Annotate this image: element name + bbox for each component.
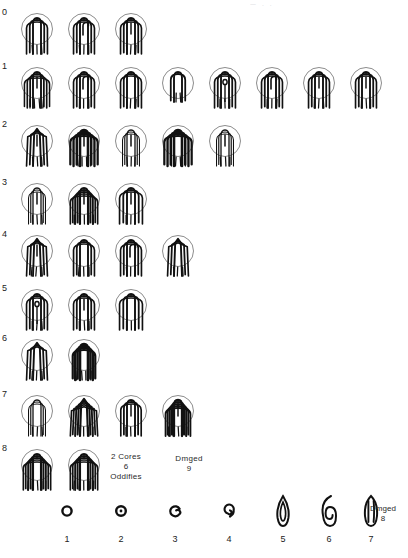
pattern-row-5: 5 [0, 284, 408, 334]
damaged-note-9: Dmged 9 [166, 454, 212, 474]
fingerprint-pattern-cell[interactable] [108, 62, 154, 112]
fingerprint-pattern-cell[interactable] [202, 120, 248, 170]
cores-oddities-note: 2 Cores 6 Oddifies [98, 452, 154, 482]
whorl-legend-item-4[interactable]: 4 [206, 490, 252, 544]
row-label-5: 5 [2, 284, 7, 293]
damaged-note-8: Dmged 8 [358, 504, 408, 524]
page-top-crop-marks: — . . [250, 0, 408, 7]
fingerprint-pattern-cell[interactable] [343, 62, 389, 112]
whorl-legend-item-3[interactable]: 3 [152, 490, 198, 544]
fingerprint-pattern-cell[interactable] [61, 8, 107, 58]
fingerprint-pattern-cell[interactable] [14, 230, 60, 280]
fingerprint-pattern-cell[interactable] [14, 178, 60, 228]
pattern-row-4: 4 [0, 230, 408, 280]
whorl-legend-item-1[interactable]: 1 [44, 490, 90, 544]
fingerprint-pattern-cell[interactable] [155, 62, 201, 112]
whorl-ring-icon [44, 490, 90, 532]
fingerprint-pattern-cell[interactable] [155, 120, 201, 170]
whorl-legend-number: 2 [98, 534, 144, 544]
fingerprint-pattern-cell[interactable] [155, 390, 201, 440]
whorl-legend: 1234567 Dmged 8 [0, 490, 408, 558]
whorl-legend-number: 7 [348, 534, 394, 544]
row-label-6: 6 [2, 334, 7, 343]
fingerprint-pattern-cell[interactable] [14, 284, 60, 334]
fingerprint-pattern-cell[interactable] [14, 8, 60, 58]
fingerprint-pattern-cell[interactable] [61, 390, 107, 440]
whorl-spiral-tail-icon [206, 490, 252, 532]
pattern-row-2: 2 [0, 120, 408, 170]
row-label-4: 4 [2, 230, 7, 239]
whorl-spiral-open-icon [152, 490, 198, 532]
whorl-ring-dot-icon [98, 490, 144, 532]
fingerprint-pattern-cell[interactable] [14, 120, 60, 170]
fingerprint-pattern-cell[interactable] [155, 230, 201, 280]
fingerprint-pattern-cell[interactable] [108, 178, 154, 228]
whorl-ellipse-double-icon [306, 490, 352, 532]
pattern-row-6: 6 [0, 334, 408, 384]
fingerprint-pattern-cell[interactable] [108, 8, 154, 58]
row-label-8: 8 [2, 444, 7, 453]
row-label-3: 3 [2, 178, 7, 187]
row-label-0: 0 [2, 8, 7, 17]
whorl-legend-item-5[interactable]: 5 [260, 490, 306, 544]
fingerprint-pattern-cell[interactable] [108, 230, 154, 280]
row-label-2: 2 [2, 120, 7, 129]
fingerprint-pattern-cell[interactable] [61, 178, 107, 228]
whorl-legend-number: 3 [152, 534, 198, 544]
whorl-legend-number: 5 [260, 534, 306, 544]
fingerprint-pattern-cell[interactable] [202, 62, 248, 112]
fingerprint-pattern-cell[interactable] [14, 334, 60, 384]
pattern-row-3: 3 [0, 178, 408, 228]
fingerprint-pattern-cell[interactable] [296, 62, 342, 112]
row-label-7: 7 [2, 390, 7, 399]
whorl-ellipse-single-icon [260, 490, 306, 532]
fingerprint-pattern-cell[interactable] [61, 284, 107, 334]
pattern-row-7: 7 [0, 390, 408, 440]
pattern-row-0: 0 [0, 8, 408, 58]
fingerprint-pattern-cell[interactable] [108, 284, 154, 334]
fingerprint-pattern-cell[interactable] [14, 62, 60, 112]
fingerprint-pattern-cell[interactable] [61, 120, 107, 170]
fingerprint-pattern-cell[interactable] [14, 444, 60, 494]
fingerprint-pattern-cell[interactable] [61, 230, 107, 280]
whorl-legend-number: 4 [206, 534, 252, 544]
worksheet-sheet: — . . 012345678 2 Cores 6 OddifiesDmged … [0, 0, 408, 558]
fingerprint-pattern-cell[interactable] [108, 390, 154, 440]
fingerprint-pattern-cell[interactable] [61, 334, 107, 384]
whorl-legend-number: 1 [44, 534, 90, 544]
whorl-legend-item-6[interactable]: 6 [306, 490, 352, 544]
fingerprint-pattern-cell[interactable] [61, 62, 107, 112]
fingerprint-pattern-cell[interactable] [249, 62, 295, 112]
whorl-legend-item-2[interactable]: 2 [98, 490, 144, 544]
row-label-1: 1 [2, 62, 7, 71]
whorl-legend-number: 6 [306, 534, 352, 544]
fingerprint-pattern-cell[interactable] [14, 390, 60, 440]
fingerprint-pattern-cell[interactable] [108, 120, 154, 170]
pattern-row-1: 1 [0, 62, 408, 112]
